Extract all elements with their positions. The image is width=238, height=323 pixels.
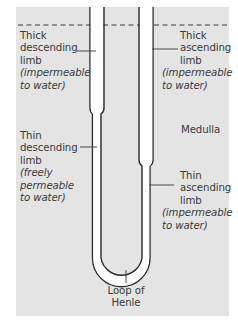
- loop-tube-inner: [101, 7, 142, 275]
- label-note: (impermeable: [162, 207, 232, 219]
- label-thick-descending-limb: Thick descending limb (impermeable to wa…: [20, 30, 90, 92]
- label-thick-ascending-limb: Thick ascending limb (impermeable to wat…: [162, 30, 232, 92]
- label-note: (freely: [20, 167, 78, 179]
- label-thin-descending-limb: Thin descending limb (freely permeable t…: [20, 130, 78, 204]
- label-line: limb: [20, 155, 78, 167]
- label-line: Thick: [20, 30, 90, 42]
- label-note: (impermeable: [20, 67, 90, 79]
- label-note: to water): [162, 80, 232, 92]
- label-medulla: Medulla: [181, 124, 220, 136]
- label-note: to water): [162, 220, 232, 232]
- label-thin-ascending-limb: Thin ascending limb (impermeable to wate…: [162, 170, 232, 232]
- label-note: permeable: [20, 180, 78, 192]
- label-line: Thin: [20, 130, 78, 142]
- label-line: limb: [162, 55, 232, 67]
- loop-tube-fill: [91, 7, 153, 286]
- label-line: Thin: [162, 170, 232, 182]
- label-line: ascending: [162, 182, 232, 194]
- label-loop-of-henle: Loop of Henle: [96, 285, 156, 310]
- label-line: limb: [162, 195, 232, 207]
- label-line: Thick: [162, 30, 232, 42]
- label-line: Loop of: [96, 285, 156, 297]
- label-line: Henle: [96, 297, 156, 309]
- label-note: to water): [20, 192, 78, 204]
- label-line: descending: [20, 42, 90, 54]
- label-note: (impermeable: [162, 67, 232, 79]
- label-line: Medulla: [181, 124, 220, 136]
- label-line: limb: [20, 55, 90, 67]
- label-line: ascending: [162, 42, 232, 54]
- label-line: descending: [20, 142, 78, 154]
- label-note: to water): [20, 80, 90, 92]
